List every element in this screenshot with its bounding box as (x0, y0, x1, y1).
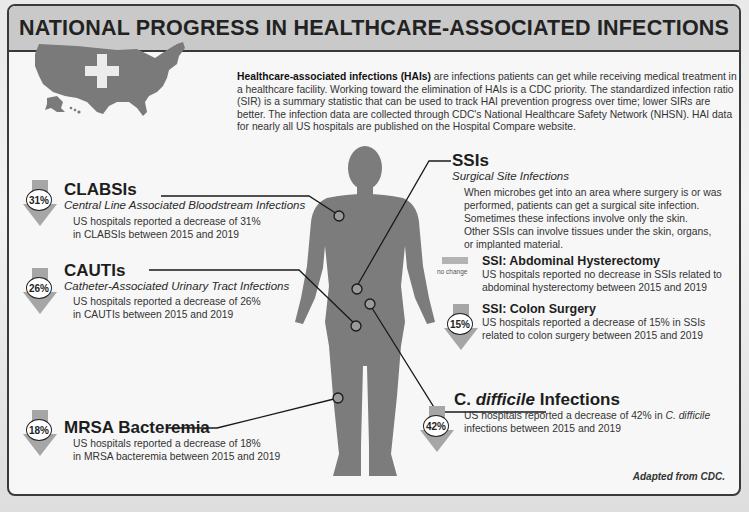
mrsa-percent-badge: 18% (26, 419, 52, 441)
ssi-title: SSIs (452, 152, 489, 170)
cauti-percent-badge: 26% (26, 277, 52, 299)
intro-bold-lead: Healthcare-associated infections (HAIs) (237, 71, 431, 82)
colon-decrease-indicator: 15% (444, 304, 478, 352)
ssi-abdominal-description: US hospitals reported no decrease in SSI… (482, 268, 722, 294)
cauti-marker (351, 321, 361, 331)
clabsi-description: US hospitals reported a decrease of 31% … (73, 215, 261, 241)
us-map-with-cross-icon (17, 36, 192, 121)
cdiff-description: US hospitals reported a decrease of 42% … (464, 409, 710, 435)
clabsi-title: CLABSIs (64, 181, 137, 199)
mrsa-title: MRSA Bacteremia (64, 419, 210, 437)
cdiff-decrease-indicator: 42% (420, 406, 454, 454)
no-change-label: no change (437, 268, 467, 275)
ssi-subtitle: Surgical Site Infections (452, 170, 569, 183)
ssi-marker (352, 284, 362, 294)
infographic-card: NATIONAL PROGRESS IN HEALTHCARE-ASSOCIAT… (7, 4, 741, 496)
ssi-colon-title: SSI: Colon Surgery (482, 302, 596, 316)
cdiff-percent-badge: 42% (423, 415, 449, 437)
clabsi-marker (334, 211, 344, 221)
cauti-title: CAUTIs (64, 262, 125, 280)
ssi-abdominal-title: SSI: Abdominal Hysterectomy (482, 254, 660, 268)
mrsa-description: US hospitals reported a decrease of 18% … (73, 437, 280, 463)
ssi-description: When microbes get into an area where sur… (464, 186, 722, 251)
no-change-bar-icon (442, 257, 468, 264)
cauti-subtitle: Catheter-Associated Urinary Tract Infect… (64, 280, 289, 293)
mrsa-marker (333, 393, 343, 403)
intro-paragraph: Healthcare-associated infections (HAIs) … (237, 71, 737, 134)
mrsa-decrease-indicator: 18% (23, 410, 57, 458)
cdiff-title: C. difficile Infections (454, 391, 620, 409)
cauti-description: US hospitals reported a decrease of 26% … (73, 295, 261, 321)
ssi-colon-description: US hospitals reported a decrease of 15% … (482, 316, 705, 342)
source-credit: Adapted from CDC. (633, 471, 725, 482)
clabsi-decrease-indicator: 31% (23, 180, 57, 228)
colon-marker (365, 299, 375, 309)
colon-percent-badge: 15% (447, 313, 473, 335)
clabsi-subtitle: Central Line Associated Bloodstream Infe… (64, 199, 305, 212)
clabsi-percent-badge: 31% (26, 189, 52, 211)
cauti-decrease-indicator: 26% (23, 268, 57, 316)
